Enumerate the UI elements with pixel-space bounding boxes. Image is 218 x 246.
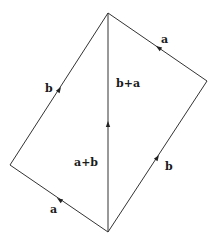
- label-b-right: b: [165, 160, 173, 173]
- label-b-left: b: [45, 82, 53, 95]
- vector-parallelogram-diagram: b a b+a a+b b a: [0, 0, 218, 246]
- edge-left-lower-a: [10, 165, 108, 232]
- label-a-plus-b: a+b: [74, 156, 98, 169]
- label-a-top: a: [161, 33, 168, 46]
- label-a-bottom: a: [50, 203, 57, 216]
- arrow-diagonal-icon: [106, 121, 110, 127]
- label-b-plus-a: b+a: [116, 77, 140, 90]
